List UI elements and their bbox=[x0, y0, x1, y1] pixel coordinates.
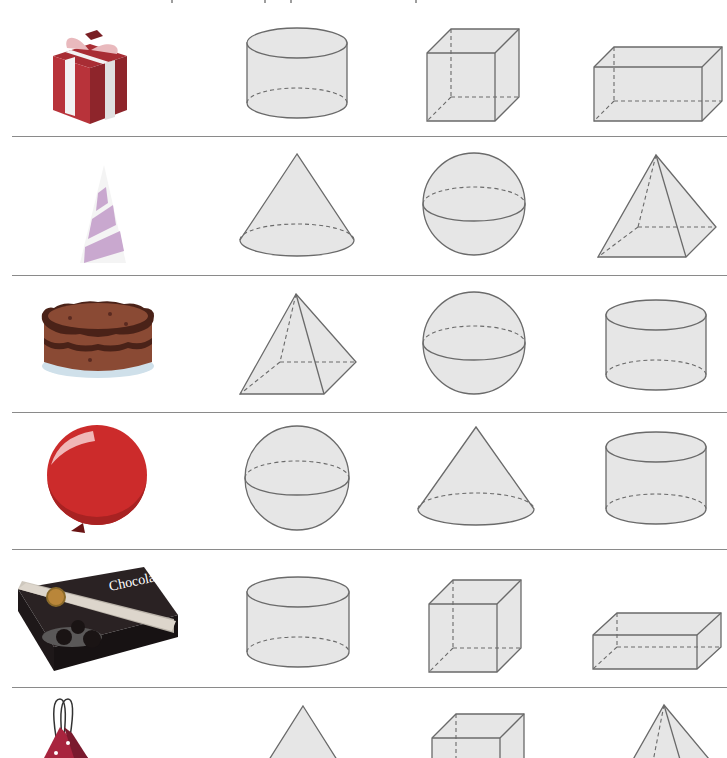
option-cube[interactable] bbox=[425, 27, 521, 123]
row-separator bbox=[12, 549, 727, 550]
cone-icon bbox=[260, 704, 346, 758]
gift-box-icon bbox=[45, 26, 135, 126]
square-pyramid-icon bbox=[238, 292, 358, 398]
row-separator bbox=[12, 275, 727, 276]
gift-bag-image bbox=[44, 697, 104, 758]
cake-image bbox=[40, 300, 158, 380]
option-cone[interactable] bbox=[416, 425, 536, 529]
row-separator bbox=[12, 136, 727, 137]
cone-icon bbox=[238, 152, 356, 258]
option-square-pyramid[interactable] bbox=[238, 292, 358, 398]
option-sphere[interactable] bbox=[421, 151, 527, 257]
option-cone[interactable] bbox=[238, 152, 356, 258]
option-sphere[interactable] bbox=[421, 290, 527, 396]
chocolate-box-icon: Chocolate bbox=[14, 563, 184, 673]
gift-box-image bbox=[45, 26, 135, 126]
sphere-icon bbox=[421, 151, 527, 257]
balloon-image bbox=[45, 423, 149, 535]
cube-icon bbox=[427, 578, 523, 674]
option-square-pyramid[interactable] bbox=[620, 703, 710, 758]
option-square-pyramid[interactable] bbox=[596, 153, 718, 259]
sphere-icon bbox=[421, 290, 527, 396]
balloon-icon bbox=[45, 423, 149, 535]
top-cutoff-text bbox=[0, 0, 727, 6]
cake-icon bbox=[40, 300, 158, 380]
chocolate-box-image: Chocolate bbox=[14, 563, 184, 673]
cylinder-icon bbox=[604, 299, 708, 397]
sphere-icon bbox=[243, 424, 351, 532]
option-sphere[interactable] bbox=[243, 424, 351, 532]
row-separator bbox=[12, 687, 727, 688]
cube-icon bbox=[430, 712, 526, 758]
cylinder-icon bbox=[245, 574, 351, 672]
row-separator bbox=[12, 412, 727, 413]
square-pyramid-icon bbox=[620, 703, 710, 758]
cylinder-icon bbox=[245, 25, 349, 123]
option-cuboid[interactable] bbox=[592, 45, 724, 123]
party-hat-icon bbox=[76, 165, 128, 269]
option-cuboid[interactable] bbox=[591, 611, 723, 671]
cuboid-icon bbox=[591, 611, 723, 671]
cube-icon bbox=[425, 27, 521, 123]
option-cylinder[interactable] bbox=[245, 574, 351, 672]
square-pyramid-icon bbox=[596, 153, 718, 259]
option-cube[interactable] bbox=[430, 712, 526, 758]
cuboid-icon bbox=[592, 45, 724, 123]
option-cylinder[interactable] bbox=[604, 299, 708, 397]
option-cylinder[interactable] bbox=[604, 431, 708, 529]
party-hat-image bbox=[76, 165, 128, 269]
cone-icon bbox=[416, 425, 536, 529]
gift-bag-icon bbox=[44, 697, 104, 758]
cylinder-icon bbox=[604, 431, 708, 529]
option-cone[interactable] bbox=[260, 704, 346, 758]
option-cube[interactable] bbox=[427, 578, 523, 674]
option-cylinder[interactable] bbox=[245, 25, 349, 123]
